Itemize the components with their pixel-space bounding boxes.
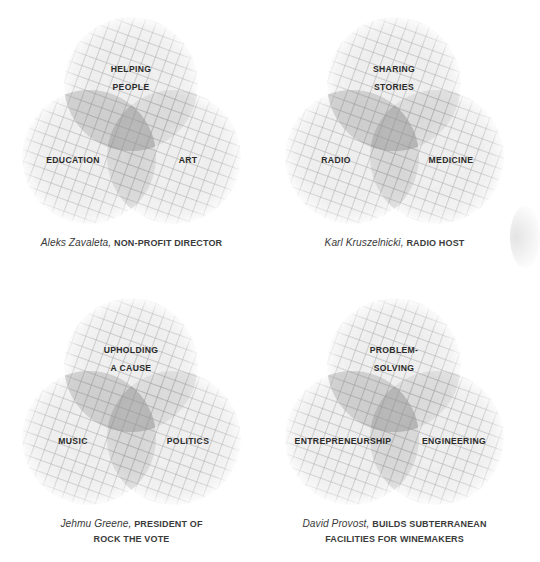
venn-diagram-cell-jehmu-greene: UPHOLDINGA CAUSEMUSICPOLITICS Jehmu Gree… [0,281,263,562]
venn-diagram: PROBLEM-SOLVINGENTREPRENEURSHIPENGINEERI… [263,281,526,519]
label-top-line2: A CAUSE [111,363,152,373]
label-top-line1: HELPING [111,64,152,74]
diagram-caption: David Provost, BUILDS SUBTERRANEAN FACIL… [263,517,526,546]
diagram-caption: Karl Kruszelnicki, RADIO HOST [263,236,526,251]
label-top-line2: SOLVING [374,363,415,373]
venn-diagram-cell-aleks-zavaleta: HELPINGPEOPLEEDUCATIONART Aleks Zavaleta… [0,0,263,281]
caption-person-name: Jehmu Greene, [60,518,134,529]
label-top-line2: PEOPLE [113,82,150,92]
label-right: ENGINEERING [422,436,486,446]
caption-person-role: RADIO HOST [406,238,464,248]
venn-circles: HELPINGPEOPLEEDUCATIONART [0,0,263,238]
label-left: ENTREPRENEURSHIP [295,436,392,446]
circle-right-hatch-overlay [107,90,241,224]
label-left: MUSIC [58,436,87,446]
label-right: ART [179,155,198,165]
venn-circles: UPHOLDINGA CAUSEMUSICPOLITICS [0,281,263,519]
venn-diagram-cell-david-provost: PROBLEM-SOLVINGENTREPRENEURSHIPENGINEERI… [263,281,526,562]
label-top-line1: PROBLEM- [370,345,419,355]
venn-diagram-cell-karl-kruszelnicki: SHARINGSTORIESRADIOMEDICINE Karl Kruszel… [263,0,526,281]
label-top-line1: SHARING [373,64,415,74]
venn-diagram: SHARINGSTORIESRADIOMEDICINE [263,0,526,238]
venn-diagram: UPHOLDINGA CAUSEMUSICPOLITICS [0,281,263,519]
caption-person-role: NON-PROFIT DIRECTOR [114,238,222,248]
diagram-caption: Jehmu Greene, PRESIDENT OF ROCK THE VOTE [0,517,263,546]
venn-circles: SHARINGSTORIESRADIOMEDICINE [263,0,526,238]
label-top-line2: STORIES [374,82,414,92]
caption-person-role: PRESIDENT OF [134,519,202,529]
venn-diagram: HELPINGPEOPLEEDUCATIONART [0,0,263,238]
caption-person-role-line2: ROCK THE VOTE [0,532,263,547]
label-right: POLITICS [167,436,209,446]
label-right: MEDICINE [429,155,474,165]
label-left: EDUCATION [46,155,100,165]
label-left: RADIO [321,155,350,165]
caption-person-name: Aleks Zavaleta, [41,237,114,248]
caption-person-name: Karl Kruszelnicki, [325,237,407,248]
label-top-line1: UPHOLDING [104,345,159,355]
caption-person-name: David Provost, [302,518,372,529]
venn-circles: PROBLEM-SOLVINGENTREPRENEURSHIPENGINEERI… [263,281,526,519]
caption-person-role-line2: FACILITIES FOR WINEMAKERS [263,532,526,547]
diagram-caption: Aleks Zavaleta, NON-PROFIT DIRECTOR [0,236,263,251]
caption-person-role: BUILDS SUBTERRANEAN [372,519,486,529]
